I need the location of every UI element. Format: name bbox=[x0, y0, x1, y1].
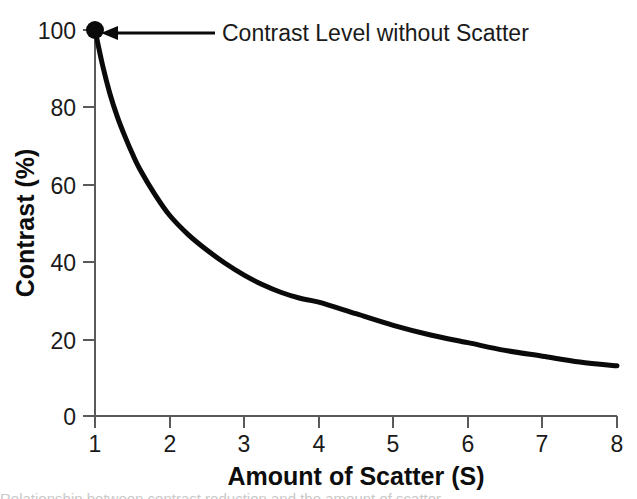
x-tick-label-1: 1 bbox=[89, 431, 102, 457]
x-tick-label-8: 8 bbox=[611, 431, 624, 457]
contrast-without-scatter-marker bbox=[86, 21, 104, 39]
x-tick-label-7: 7 bbox=[536, 431, 549, 457]
clipped-caption: Relationship between contrast reduction … bbox=[0, 491, 637, 499]
chart-figure: 100 80 60 40 20 0 1 2 3 4 5 6 7 8 Amount… bbox=[0, 0, 637, 499]
x-axis-ticks bbox=[95, 416, 617, 428]
y-tick-label-100: 100 bbox=[38, 18, 76, 44]
y-tick-label-0: 0 bbox=[63, 404, 76, 430]
annotation-label: Contrast Level without Scatter bbox=[222, 20, 529, 46]
x-tick-label-3: 3 bbox=[238, 431, 251, 457]
x-tick-label-5: 5 bbox=[387, 431, 400, 457]
x-tick-label-6: 6 bbox=[462, 431, 475, 457]
y-tick-label-20: 20 bbox=[50, 328, 76, 354]
y-tick-label-60: 60 bbox=[50, 173, 76, 199]
x-axis-title: Amount of Scatter (S) bbox=[228, 462, 485, 490]
x-tick-label-2: 2 bbox=[164, 431, 177, 457]
y-tick-label-40: 40 bbox=[50, 250, 76, 276]
contrast-curve bbox=[95, 30, 617, 366]
x-tick-label-4: 4 bbox=[313, 431, 326, 457]
y-axis-title: Contrast (%) bbox=[11, 149, 39, 298]
y-tick-label-80: 80 bbox=[50, 95, 76, 121]
contrast-scatter-line-chart: 100 80 60 40 20 0 1 2 3 4 5 6 7 8 Amount… bbox=[0, 0, 637, 499]
y-axis-ticks bbox=[83, 30, 95, 416]
